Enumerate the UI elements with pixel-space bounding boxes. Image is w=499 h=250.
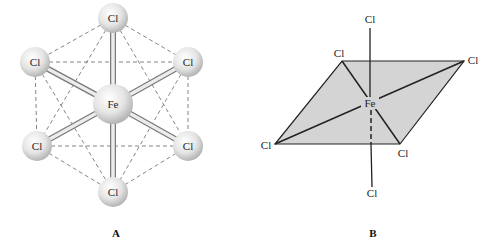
svg-text:Fe: Fe	[108, 98, 119, 110]
atom-cl-left-label: Cl	[261, 139, 271, 151]
panel-a-caption: A	[112, 227, 120, 239]
svg-text:Cl: Cl	[108, 186, 118, 198]
atom-cl-top: Cl	[98, 3, 128, 33]
panel-b: Fe Cl Cl Cl Cl Cl Cl B	[261, 13, 478, 239]
atom-cl-back-left-label: Cl	[334, 47, 344, 59]
octahedral-complex-figure: Cl Cl Cl Cl Cl Cl Fe A	[0, 0, 499, 250]
atom-cl-front-right-label: Cl	[398, 147, 408, 159]
svg-text:Cl: Cl	[32, 140, 42, 152]
atom-cl-top-label: Cl	[365, 13, 375, 25]
atom-cl-right-label: Cl	[468, 54, 478, 66]
atom-cl-lower-left: Cl	[22, 131, 52, 161]
svg-text:Cl: Cl	[108, 12, 118, 24]
svg-text:Cl: Cl	[183, 56, 193, 68]
atom-cl-bottom: Cl	[98, 177, 128, 207]
atom-cl-bottom-label: Cl	[367, 187, 377, 199]
panel-a: Cl Cl Cl Cl Cl Cl Fe A	[20, 3, 203, 239]
atom-cl-upper-left: Cl	[20, 47, 50, 77]
atom-fe-center: Fe	[93, 84, 133, 124]
axial-bond-bottom	[371, 144, 372, 187]
panel-b-caption: B	[369, 227, 377, 239]
svg-text:Cl: Cl	[183, 140, 193, 152]
svg-text:Cl: Cl	[30, 56, 40, 68]
atom-fe-label: Fe	[365, 97, 376, 109]
atom-cl-upper-right: Cl	[173, 47, 203, 77]
atom-cl-lower-right: Cl	[173, 131, 203, 161]
